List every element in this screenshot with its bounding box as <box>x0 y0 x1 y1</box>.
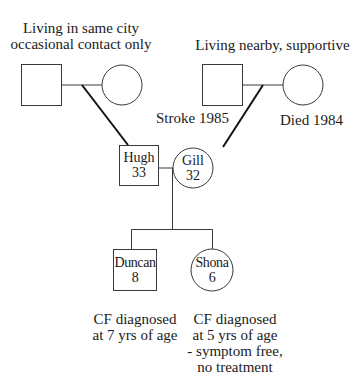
shona-note-1: CF diagnosed <box>180 311 290 327</box>
shona-name: Shona <box>191 255 233 270</box>
shona-note-2: at 5 yrs of age <box>180 327 290 343</box>
maternal-grandmother-circle <box>283 65 323 105</box>
paternal-grandfather-square <box>22 65 62 106</box>
paternal-note-line-1: Living in same city <box>0 20 162 36</box>
duncan-label: Duncan 8 <box>113 255 157 285</box>
paternal-note: Living in same city occasional contact o… <box>0 20 162 52</box>
duncan-age: 8 <box>113 270 157 285</box>
duncan-notes: CF diagnosed at 7 yrs of age <box>85 311 185 343</box>
paternal-descent-line <box>82 85 128 145</box>
gill-age: 32 <box>173 168 213 183</box>
duncan-note-1: CF diagnosed <box>85 311 185 327</box>
shona-label: Shona 6 <box>191 255 233 285</box>
maternal-grandfather-square <box>203 65 243 106</box>
maternal-note: Living nearby, supportive <box>190 37 355 53</box>
gill-label: Gill 32 <box>173 153 213 183</box>
shona-notes: CF diagnosed at 5 yrs of age - symptom f… <box>180 311 290 375</box>
died-annotation: Died 1984 <box>280 112 343 128</box>
hugh-age: 33 <box>119 165 159 180</box>
gill-name: Gill <box>173 153 213 168</box>
paternal-note-line-2: occasional contact only <box>0 36 162 52</box>
hugh-label: Hugh 33 <box>119 150 159 180</box>
shona-age: 6 <box>191 270 233 285</box>
shona-note-4: no treatment <box>180 359 290 375</box>
stroke-annotation: Stroke 1985 <box>156 110 229 126</box>
paternal-grandmother-circle <box>102 65 142 105</box>
shona-note-3: - symptom free, <box>180 343 290 359</box>
duncan-name: Duncan <box>113 255 157 270</box>
duncan-note-2: at 7 yrs of age <box>85 327 185 343</box>
hugh-name: Hugh <box>119 150 159 165</box>
